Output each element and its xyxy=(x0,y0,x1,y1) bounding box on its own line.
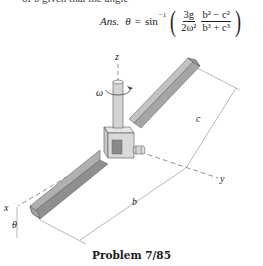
omega-label: ω xyxy=(96,87,103,98)
mechanism-diagram: z y x ω c b θ xyxy=(0,0,263,266)
dimension-line-c xyxy=(186,88,236,168)
collar-slot xyxy=(112,140,122,154)
collar-left-face xyxy=(104,127,108,158)
figure-caption: Problem 7/85 xyxy=(0,249,263,261)
theta-label: θ xyxy=(12,219,17,230)
pin-end xyxy=(141,146,145,154)
bar-upper-side xyxy=(134,62,200,128)
extension-line-pin xyxy=(145,156,190,178)
x-axis-label: x xyxy=(3,202,9,213)
z-axis-label: z xyxy=(114,51,119,62)
y-axis-line xyxy=(140,152,218,178)
y-axis-label: y xyxy=(219,173,225,184)
c-label: c xyxy=(196,113,201,124)
b-label: b xyxy=(132,196,137,207)
bar-upper-top xyxy=(129,58,193,123)
extension-line-b-bottom xyxy=(40,220,86,244)
bar-lower-side xyxy=(32,160,108,219)
bar-lower-top xyxy=(30,150,100,213)
extension-line-c-top xyxy=(197,68,240,90)
vertical-shaft xyxy=(113,82,123,128)
rotation-arrowhead-icon xyxy=(127,86,133,90)
shaft-top xyxy=(113,80,123,84)
